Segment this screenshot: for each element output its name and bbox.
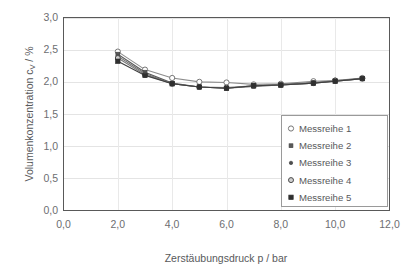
data-point-filled-square xyxy=(360,76,364,80)
legend-item-1[interactable]: Messreihe 1 xyxy=(284,121,384,137)
x-tick-label: 6,0 xyxy=(219,218,234,230)
legend-marker-filled-dot-icon xyxy=(289,161,292,164)
y-tick-label: 0,5 xyxy=(43,172,58,184)
data-point-filled-square xyxy=(311,81,315,85)
chart-figure: 0,00,51,01,52,02,53,0 0,02,04,06,08,010,… xyxy=(0,0,401,272)
x-tick-label: 12,0 xyxy=(379,218,400,230)
legend-label: Messreihe 2 xyxy=(299,140,351,151)
x-tick-label: 0,0 xyxy=(56,218,71,230)
data-point-filled-square xyxy=(224,86,228,90)
legend-item-4[interactable]: Messreihe 4 xyxy=(284,172,384,188)
y-tick-label: 1,0 xyxy=(43,140,58,152)
data-point-open-circle xyxy=(224,80,229,85)
legend-label: Messreihe 1 xyxy=(299,123,351,134)
legend-marker-filled-square-icon xyxy=(289,195,293,199)
legend-marker-filled-circle-icon xyxy=(289,178,294,183)
x-tick-label: 10,0 xyxy=(325,218,346,230)
y-tick-label: 0,0 xyxy=(43,204,58,216)
y-tick-label: 1,5 xyxy=(43,108,58,120)
data-point-filled-square xyxy=(197,85,201,89)
x-axis-title: Zerstäubungsdruck p / bar xyxy=(165,252,288,264)
legend-item-5[interactable]: Messreihe 5 xyxy=(284,189,384,205)
data-point-filled-square xyxy=(143,73,147,77)
data-point-filled-square xyxy=(116,59,120,63)
y-tick-label: 3,0 xyxy=(43,11,58,23)
data-point-filled-square xyxy=(170,82,174,86)
data-point-filled-square xyxy=(251,83,255,87)
legend-label: Messreihe 3 xyxy=(299,157,351,168)
volumenkonzentration-line-chart: 0,00,51,01,52,02,53,0 0,02,04,06,08,010,… xyxy=(0,0,401,272)
legend-label: Messreihe 5 xyxy=(299,192,351,203)
x-tick-label: 8,0 xyxy=(274,218,289,230)
y-tick-label: 2,5 xyxy=(43,43,58,55)
x-tick-label: 4,0 xyxy=(165,218,180,230)
y-tick-label: 2,0 xyxy=(43,75,58,87)
legend-label: Messreihe 4 xyxy=(299,175,352,186)
legend-items[interactable]: Messreihe 1Messreihe 2Messreihe 3Messrei… xyxy=(284,121,384,206)
data-point-filled-square xyxy=(333,79,337,83)
data-point-open-circle xyxy=(197,79,202,84)
legend-item-2[interactable]: Messreihe 2 xyxy=(284,138,384,154)
data-point-filled-square xyxy=(279,83,283,87)
legend-item-3[interactable]: Messreihe 3 xyxy=(284,155,384,171)
chart-legend[interactable]: Messreihe 1Messreihe 2Messreihe 3Messrei… xyxy=(282,116,388,207)
legend-marker-open-circle-icon xyxy=(288,126,293,131)
legend-marker-filled-square-small-icon xyxy=(289,144,293,148)
data-point-open-circle xyxy=(170,75,175,80)
x-tick-label: 2,0 xyxy=(111,218,126,230)
